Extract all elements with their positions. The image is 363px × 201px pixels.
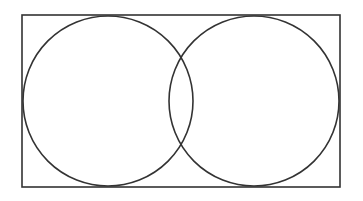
universe-rectangle xyxy=(22,15,340,187)
venn-diagram xyxy=(0,0,363,201)
set-a-circle xyxy=(23,16,193,186)
set-b-circle xyxy=(169,16,339,186)
